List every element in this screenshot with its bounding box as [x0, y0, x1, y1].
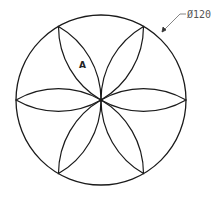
- petal-right: [101, 89, 186, 112]
- diameter-leader: [162, 14, 186, 32]
- rosette-drawing: Ø120 A: [0, 0, 224, 197]
- center-point: [99, 98, 102, 101]
- region-label-a: A: [79, 60, 86, 70]
- petal-left: [16, 89, 101, 112]
- diameter-dimension: Ø120: [187, 9, 211, 20]
